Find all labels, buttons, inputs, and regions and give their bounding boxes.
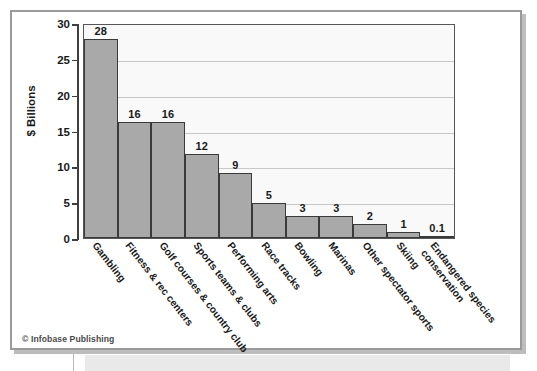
bar-cell[interactable]: 16 xyxy=(118,25,152,238)
bar[interactable] xyxy=(84,39,118,238)
bar-cell[interactable]: 28 xyxy=(84,25,118,238)
bar-value-label: 16 xyxy=(118,108,152,120)
bar-value-label: 3 xyxy=(319,202,353,214)
y-axis-tick-label: 5 xyxy=(42,197,70,209)
y-axis-tick-mark xyxy=(72,96,78,98)
y-axis-tick-mark xyxy=(72,24,78,26)
y-axis-tick-mark xyxy=(72,167,78,169)
x-axis-category-label-line: Marinas xyxy=(327,240,359,277)
plot-area: 281616129533210.1 xyxy=(83,24,455,239)
bar-cell[interactable]: 16 xyxy=(151,25,185,238)
bar-value-label: 16 xyxy=(151,108,185,120)
bar-value-label: 28 xyxy=(84,25,118,37)
bar-cell[interactable]: 5 xyxy=(252,25,286,238)
y-axis-tick-label: 30 xyxy=(42,18,70,30)
x-axis-category-label-line: Bowling xyxy=(293,240,326,278)
bar[interactable] xyxy=(420,236,454,238)
y-axis-tick-label: 15 xyxy=(42,126,70,138)
bar[interactable] xyxy=(219,173,253,238)
bar[interactable] xyxy=(118,122,152,238)
x-axis-category-label-line: Endangered species xyxy=(428,240,498,325)
bar-value-label: 1 xyxy=(387,218,421,230)
y-axis-tick-mark xyxy=(72,132,78,134)
y-axis-tick-label: 0 xyxy=(42,233,70,245)
x-axis-category-labels: GamblingFitness & rec centersGolf course… xyxy=(83,240,455,360)
bar[interactable] xyxy=(252,203,286,238)
bar[interactable] xyxy=(185,154,219,238)
bar-cell[interactable]: 2 xyxy=(353,25,387,238)
y-axis-tick-labels: 051015202530 xyxy=(36,0,70,371)
bar-value-label: 12 xyxy=(185,140,219,152)
bar-series: 281616129533210.1 xyxy=(84,25,454,238)
y-axis-tick-mark xyxy=(72,239,78,241)
bar-cell[interactable]: 3 xyxy=(286,25,320,238)
bar-value-label: 0.1 xyxy=(420,222,454,234)
bar[interactable] xyxy=(387,232,421,238)
bar-cell[interactable]: 0.1 xyxy=(420,25,454,238)
bar-value-label: 3 xyxy=(286,202,320,214)
x-axis-category-label: Marinas xyxy=(326,240,359,277)
bar[interactable] xyxy=(286,216,320,238)
y-axis-tick-mark xyxy=(72,203,78,205)
x-axis-category-label: Bowling xyxy=(292,240,325,278)
bar-value-label: 2 xyxy=(353,210,387,222)
x-axis-category-label: Sports teams & clubs xyxy=(191,240,264,329)
bar-value-label: 9 xyxy=(219,159,253,171)
x-axis-category-label-line: Skiing xyxy=(394,240,421,271)
bar[interactable] xyxy=(353,224,387,238)
y-axis-tick-label: 25 xyxy=(42,54,70,66)
bar[interactable] xyxy=(319,216,353,238)
bar-chart: $ Billions 051015202530 281616129533210.… xyxy=(0,0,537,371)
bar-cell[interactable]: 3 xyxy=(319,25,353,238)
x-axis-category-label: Skiing xyxy=(394,240,422,271)
y-axis-tick-mark xyxy=(72,60,78,62)
bar-cell[interactable]: 12 xyxy=(185,25,219,238)
copyright-credit: © Infobase Publishing xyxy=(22,334,114,344)
bar[interactable] xyxy=(151,122,185,238)
y-axis-tick-label: 20 xyxy=(42,90,70,102)
bar-cell[interactable]: 1 xyxy=(387,25,421,238)
bar-value-label: 5 xyxy=(252,189,286,201)
figure-page: $ Billions 051015202530 281616129533210.… xyxy=(0,0,537,371)
bar-cell[interactable]: 9 xyxy=(219,25,253,238)
y-axis-tick-label: 10 xyxy=(42,161,70,173)
